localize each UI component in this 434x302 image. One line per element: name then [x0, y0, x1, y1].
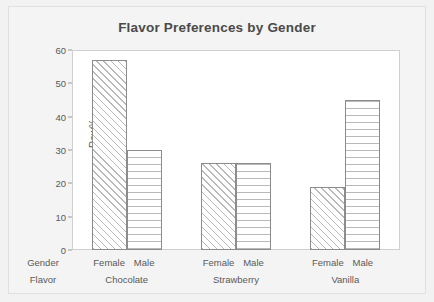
y-tick-label-40: 40 [55, 111, 66, 122]
x-group-label-chocolate: Chocolate [105, 274, 148, 285]
x-tick-vanilla-male: Male [353, 257, 374, 268]
bar-vanilla-male [345, 100, 380, 250]
bar-strawberry-female [201, 163, 236, 250]
x-tick-strawberry-female: Female [203, 257, 235, 268]
x-tick-vanilla-female: Female [312, 257, 344, 268]
bar-vanilla-female [310, 187, 345, 250]
bar-chocolate-female [92, 60, 127, 250]
x-tick-chocolate-male: Male [134, 257, 155, 268]
y-tick-mark-40 [68, 116, 72, 117]
x-axis-row-header-gender: Gender [14, 257, 72, 268]
y-tick-label-50: 50 [55, 78, 66, 89]
plot-area: Row% 0102030405060 [72, 50, 400, 250]
y-tick-mark-60 [68, 50, 72, 51]
x-tick-strawberry-male: Male [243, 257, 264, 268]
y-tick-mark-10 [68, 216, 72, 217]
chart-title: Flavor Preferences by Gender [0, 20, 434, 35]
x-axis: Gender Flavor FemaleMaleChocolateFemaleM… [0, 250, 434, 300]
y-tick-label-30: 30 [55, 145, 66, 156]
x-tick-chocolate-female: Female [93, 257, 125, 268]
bar-chocolate-male [127, 150, 162, 250]
y-tick-label-10: 10 [55, 211, 66, 222]
y-tick-mark-20 [68, 183, 72, 184]
y-tick-label-60: 60 [55, 45, 66, 56]
x-group-label-strawberry: Strawberry [213, 274, 259, 285]
chart-figure: Flavor Preferences by Gender Row% 010203… [0, 0, 434, 302]
x-axis-row-header-flavor: Flavor [14, 274, 72, 285]
x-group-label-vanilla: Vanilla [331, 274, 359, 285]
y-tick-label-20: 20 [55, 178, 66, 189]
y-tick-mark-50 [68, 83, 72, 84]
y-tick-mark-30 [68, 150, 72, 151]
bar-strawberry-male [236, 163, 271, 250]
